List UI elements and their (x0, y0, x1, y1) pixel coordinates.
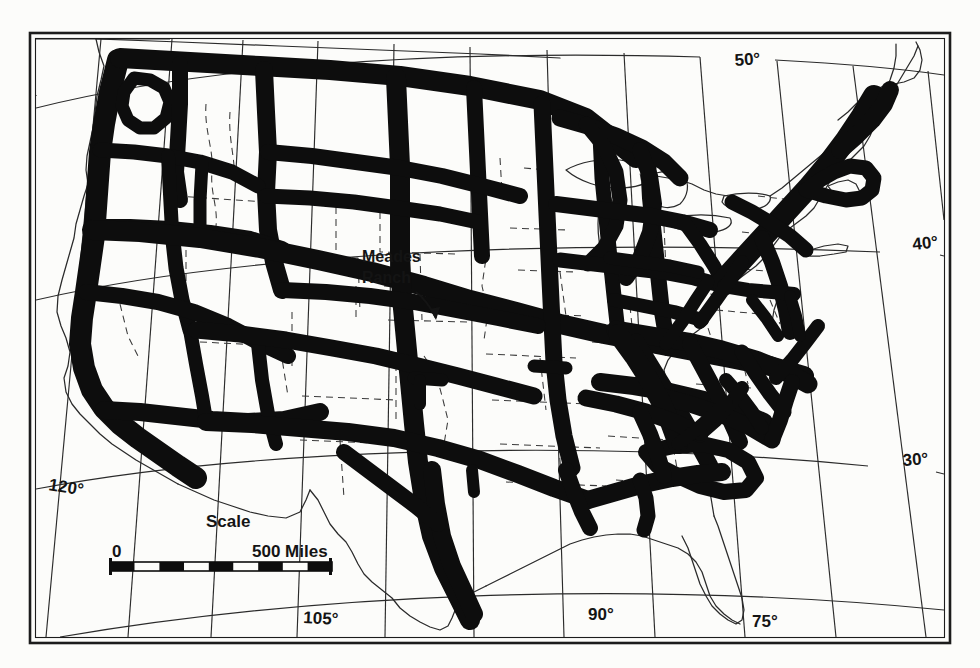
longitude-105-label: 105° (303, 608, 339, 629)
arc-central-mer2 (474, 88, 482, 256)
arc-nevada-ns2 (200, 164, 202, 232)
arc-stub-oklahoma (472, 470, 474, 492)
latitude-40-label: 40° (911, 232, 939, 254)
meades-ranch-line2: Ranch (362, 269, 411, 286)
map-figure: Meades Ranch 50° 40° 30° 120° 105° 90° 7… (0, 0, 980, 668)
longitude-90-label: 90° (588, 605, 614, 624)
arc-nevada-ns (168, 156, 172, 230)
latitude-30-label: 30° (902, 449, 929, 470)
arc-stub-missouri (534, 366, 566, 368)
arc-ny-tie (724, 286, 794, 294)
meades-ranch-line1: Meades (362, 248, 421, 265)
map-canvas: Meades Ranch 50° 40° 30° 120° 105° 90° 7… (0, 0, 980, 668)
scale-min-label: 0 (112, 542, 121, 561)
scale-title: Scale (206, 512, 250, 531)
arc-florida-entry (640, 480, 648, 530)
arc-cascade (176, 64, 180, 200)
latitude-50-label: 50° (734, 49, 761, 70)
scale-max-label: 500 Miles (252, 542, 328, 561)
longitude-75-label: 75° (752, 612, 778, 631)
